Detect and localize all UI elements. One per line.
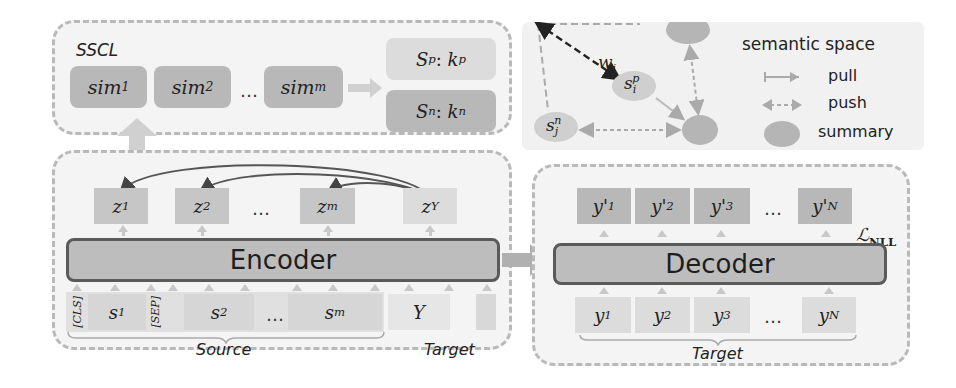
up-arrow-icon bbox=[657, 287, 667, 294]
y-prime-box-1: y'1 bbox=[577, 188, 631, 224]
push-arrow-icon bbox=[762, 98, 802, 112]
y-box-N: yN bbox=[802, 297, 856, 333]
encoder-target-label: Target bbox=[424, 340, 475, 359]
decoder-block: Decoder bbox=[553, 243, 887, 285]
y-prime-box-2: y'2 bbox=[635, 188, 690, 224]
sentence-1: s1 bbox=[88, 294, 146, 330]
up-arrow-icon bbox=[72, 284, 82, 291]
summary-ellipse-icon bbox=[762, 120, 802, 148]
legend-push-label: push bbox=[828, 93, 867, 112]
y-prime-box-N: y'N bbox=[798, 188, 852, 224]
sim-box-1: sim1 bbox=[70, 66, 147, 108]
y-box-1: y1 bbox=[575, 297, 631, 333]
y-box-3: y3 bbox=[694, 297, 750, 333]
negative-sample-node: sjn bbox=[546, 114, 561, 138]
pull-arrow-icon bbox=[762, 70, 802, 84]
z-box-1: z1 bbox=[94, 188, 148, 224]
sentence-ellipsis: … bbox=[266, 304, 284, 325]
up-arrow-icon bbox=[482, 284, 492, 291]
semantic-space-title: semantic space bbox=[742, 34, 875, 54]
up-arrow-icon bbox=[370, 284, 380, 291]
sim-box-m: simm bbox=[264, 66, 343, 108]
source-label: Source bbox=[196, 340, 251, 359]
y-ellipsis: … bbox=[764, 306, 782, 327]
up-arrow-icon bbox=[444, 284, 454, 291]
up-arrow-icon bbox=[146, 284, 156, 291]
y-prime-box-3: y'3 bbox=[694, 188, 750, 224]
up-arrow-icon bbox=[425, 225, 435, 232]
up-arrow-icon bbox=[118, 225, 128, 232]
sentence-2: s2 bbox=[184, 294, 254, 330]
up-arrow-icon bbox=[292, 284, 302, 291]
weight-label: wi bbox=[598, 52, 616, 75]
z-box-target: zY bbox=[403, 188, 457, 224]
target-pad-box bbox=[476, 294, 496, 330]
up-arrow-icon bbox=[240, 284, 250, 291]
sim-box-2: sim2 bbox=[154, 66, 231, 108]
encoder-block: Encoder bbox=[66, 238, 500, 282]
up-arrow-icon bbox=[110, 284, 120, 291]
sims-to-sets-arrow-icon bbox=[348, 76, 384, 100]
up-arrow-icon bbox=[323, 225, 333, 232]
up-arrow-icon bbox=[168, 284, 178, 291]
target-input-Y: Y bbox=[388, 294, 450, 330]
decoder-target-label: Target bbox=[692, 344, 743, 363]
positive-sample-node: sip bbox=[624, 72, 639, 96]
legend-summary-label: summary bbox=[818, 122, 894, 141]
up-arrow-icon bbox=[197, 225, 207, 232]
up-arrow-icon bbox=[204, 284, 214, 291]
negative-set-box: Sn: kn bbox=[386, 90, 496, 132]
up-arrow-icon bbox=[404, 284, 414, 291]
up-arrow-icon bbox=[657, 230, 667, 237]
positive-set-box: Sp: kp bbox=[386, 38, 496, 80]
legend-pull-label: pull bbox=[828, 66, 857, 85]
up-arrow-icon bbox=[716, 230, 726, 237]
sim-ellipsis: … bbox=[240, 80, 258, 101]
sep-token: [SEP] bbox=[146, 294, 164, 330]
y-prime-ellipsis: … bbox=[764, 198, 782, 219]
z-box-2: z2 bbox=[175, 188, 229, 224]
up-arrow-icon bbox=[599, 230, 609, 237]
up-arrow-icon bbox=[716, 287, 726, 294]
up-arrow-icon bbox=[328, 284, 338, 291]
cls-token: [CLS] bbox=[68, 294, 86, 330]
z-ellipsis: … bbox=[252, 198, 270, 219]
semantic-space-diagram bbox=[522, 22, 762, 162]
z-box-m: zm bbox=[300, 188, 355, 224]
up-arrow-icon bbox=[824, 287, 834, 294]
y-box-2: y2 bbox=[635, 297, 690, 333]
up-arrow-icon bbox=[821, 230, 831, 237]
attention-curves bbox=[100, 160, 440, 210]
sscl-title: SSCL bbox=[76, 40, 118, 60]
sentence-m: sm bbox=[288, 294, 382, 330]
up-arrow-icon bbox=[599, 287, 609, 294]
